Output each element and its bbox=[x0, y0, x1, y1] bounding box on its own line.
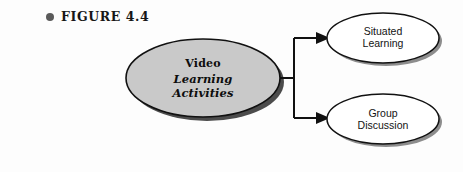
main-node-ellipse[interactable] bbox=[126, 39, 280, 117]
diagram-canvas bbox=[0, 0, 463, 172]
leaf-node-2-ellipse[interactable] bbox=[327, 94, 439, 144]
figure-container: FIGURE 4.4 Video Learning Activities Sit… bbox=[0, 0, 463, 172]
leaf-node-1-ellipse[interactable] bbox=[327, 13, 439, 63]
